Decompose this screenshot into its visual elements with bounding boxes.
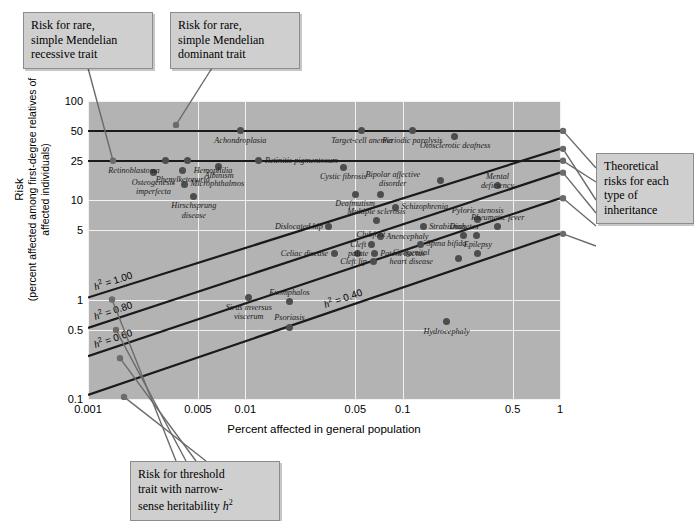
data-point-label: Achondroplasia <box>214 136 266 146</box>
data-point-label: Retinoblastoma <box>108 166 159 176</box>
leader-theoretical-2 <box>563 161 596 182</box>
callout-dominant-line-1: Risk for rare, <box>178 18 292 33</box>
data-point-label: Osteogenesisimperfecta <box>132 178 175 197</box>
callout-theoretical-line-3: type of <box>604 188 686 203</box>
callout-dominant-line-2: simple Mendelian <box>178 33 292 48</box>
leader-theoretical-6 <box>563 234 596 246</box>
data-point-label: Congenitalheart disease <box>390 248 433 267</box>
data-point <box>286 324 293 331</box>
data-point-label: Dislocated hip <box>275 222 323 232</box>
x-tick-0.005: 0.005 <box>184 403 212 415</box>
plot-area: AchondroplasiaTarget-cell anemiaPeriodic… <box>88 101 560 399</box>
x-tick-0.001: 0.001 <box>74 403 102 415</box>
y-tick-100: 100 <box>65 95 83 107</box>
data-point <box>437 177 444 184</box>
data-point-label: Otosclerotic deafness <box>420 141 490 151</box>
y-tick-50: 50 <box>71 125 83 137</box>
callout-risk-recessive: Risk for rare, simple Mendelian recessiv… <box>23 12 153 69</box>
data-point <box>417 241 424 248</box>
data-point-label: Sirus inversusviscerum <box>226 303 272 322</box>
y-axis-title: Risk (percent affected among first-degre… <box>13 60 52 320</box>
callout-recessive-line-1: Risk for rare, <box>31 18 145 33</box>
data-point <box>455 255 462 262</box>
callout-theoretical-line-1: Theoretical <box>604 159 686 174</box>
y-tick-5: 5 <box>77 224 83 236</box>
x-axis-ticks: 0.0010.0050.010.050.10.51 <box>88 403 560 419</box>
x-axis-title: Percent affected in general population <box>88 423 560 435</box>
callout-threshold-line-2: trait with narrow- <box>138 482 272 497</box>
data-point-label: Multiple sclerosis <box>347 207 405 217</box>
data-point <box>368 241 375 248</box>
data-point-label: Diabetes <box>449 222 478 232</box>
dominant-trait-line <box>88 130 560 132</box>
callout-dominant-line-3: dominant trait <box>178 47 292 62</box>
y-tick-25: 25 <box>71 155 83 167</box>
data-point-label: Cleftpalate <box>348 240 368 259</box>
y-axis-title-main: Risk <box>13 60 25 320</box>
callout-recessive-line-2: simple Mendelian <box>31 33 145 48</box>
callout-theoretical-line-2: risks for each <box>604 174 686 189</box>
leader-theoretical-1 <box>563 131 596 168</box>
y-tick-10: 10 <box>71 194 83 206</box>
data-point-label: Retinitis pigmentosum <box>265 156 338 166</box>
y-tick-0.5: 0.5 <box>68 324 83 336</box>
data-point <box>352 191 359 198</box>
data-point-label: Bipolar affectivedisorder <box>365 170 420 189</box>
callout-risk-dominant: Risk for rare, simple Mendelian dominant… <box>170 12 300 69</box>
x-tick-0.1: 0.1 <box>395 403 410 415</box>
data-point-label: Hirschsprungdisease <box>171 201 216 220</box>
y-tick-1: 1 <box>77 294 83 306</box>
data-point <box>377 191 384 198</box>
callout-threshold-line-1: Risk for threshold <box>138 467 272 482</box>
data-point-label: Microphthalmos <box>190 179 244 189</box>
callout-threshold-line-3-text: sense heritability <box>138 499 223 513</box>
callout-recessive-line-3: recessive trait <box>31 47 145 62</box>
h2-exponent: 2 <box>229 498 233 507</box>
leader-theoretical-5 <box>563 198 596 226</box>
data-point-label: Clubfoot <box>357 230 386 240</box>
data-point <box>371 250 378 257</box>
data-point-label: Epilepsy <box>464 240 492 250</box>
data-point-label: Exomphalos <box>269 288 309 298</box>
data-point <box>340 164 347 171</box>
data-point-label: Anencephaly <box>386 232 428 242</box>
leader-theoretical-3 <box>563 149 596 200</box>
leader-theoretical-4 <box>563 173 596 213</box>
x-tick-0.05: 0.05 <box>345 403 366 415</box>
callout-theoretical-line-4: inheritance <box>604 203 686 218</box>
data-point-label: Psoriasis <box>274 313 304 323</box>
data-point-label: Rheumatic fever <box>471 213 524 223</box>
data-point-label: Celiac disease <box>281 249 329 259</box>
gridline-vertical-1 <box>560 101 561 399</box>
data-point-label: Hydrocephaly <box>424 327 470 337</box>
data-point <box>190 193 197 200</box>
callout-theoretical-risks: Theoretical risks for each type of inher… <box>596 153 694 224</box>
data-point-label: Cleft lip <box>340 257 367 267</box>
callout-threshold-line-3: sense heritability h2 <box>138 496 272 514</box>
data-point-label: Cystic fibrosis <box>320 172 367 182</box>
data-point-label: Mentaldeficiency <box>481 172 514 191</box>
callout-threshold-trait: Risk for threshold trait with narrow- se… <box>130 461 280 521</box>
data-point-label: Schizophrenia <box>401 202 448 212</box>
x-tick-0.01: 0.01 <box>235 403 256 415</box>
x-tick-0.5: 0.5 <box>505 403 520 415</box>
x-tick-1: 1 <box>557 403 563 415</box>
y-axis-title-sub: (percent affected among first-degree rel… <box>26 60 52 320</box>
gridline-horizontal-0.1 <box>88 399 560 400</box>
